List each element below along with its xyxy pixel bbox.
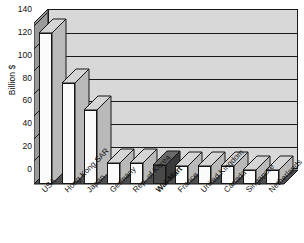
x-axis-label-japan: Japan xyxy=(85,173,107,195)
x-axis-label-usa: USA xyxy=(40,176,58,194)
bar-chart: Billion $ 140120100806040200 USAHong Kon… xyxy=(0,0,304,243)
x-axis-label-netherlands: Netherlands xyxy=(267,157,304,194)
x-axis-category-labels: USAHong Kong SARJapanGermanyRep. of Kore… xyxy=(0,0,304,243)
